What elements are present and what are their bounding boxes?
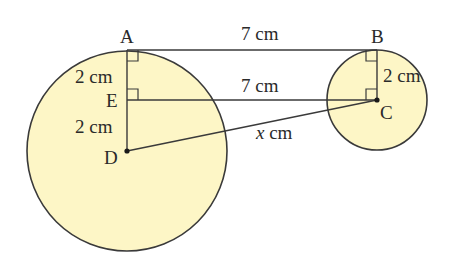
point-c-dot: [374, 97, 379, 102]
length-label-dc: x cm: [255, 122, 293, 143]
point-label-b: B: [371, 26, 384, 47]
length-label-ed: 2 cm: [75, 116, 113, 137]
point-label-c: C: [380, 102, 393, 123]
point-label-e: E: [106, 90, 118, 111]
length-label-ae: 2 cm: [75, 66, 113, 87]
length-label-ab: 7 cm: [241, 23, 279, 44]
point-label-a: A: [120, 26, 134, 47]
point-d-dot: [124, 148, 129, 153]
geometry-diagram: A B C D E 7 cm 7 cm 2 cm 2 cm 2 cm x cm: [0, 0, 449, 266]
length-label-ec: 7 cm: [241, 75, 279, 96]
length-label-bc: 2 cm: [383, 65, 421, 86]
length-label-dc-unit: cm: [264, 122, 292, 143]
point-label-d: D: [104, 147, 118, 168]
